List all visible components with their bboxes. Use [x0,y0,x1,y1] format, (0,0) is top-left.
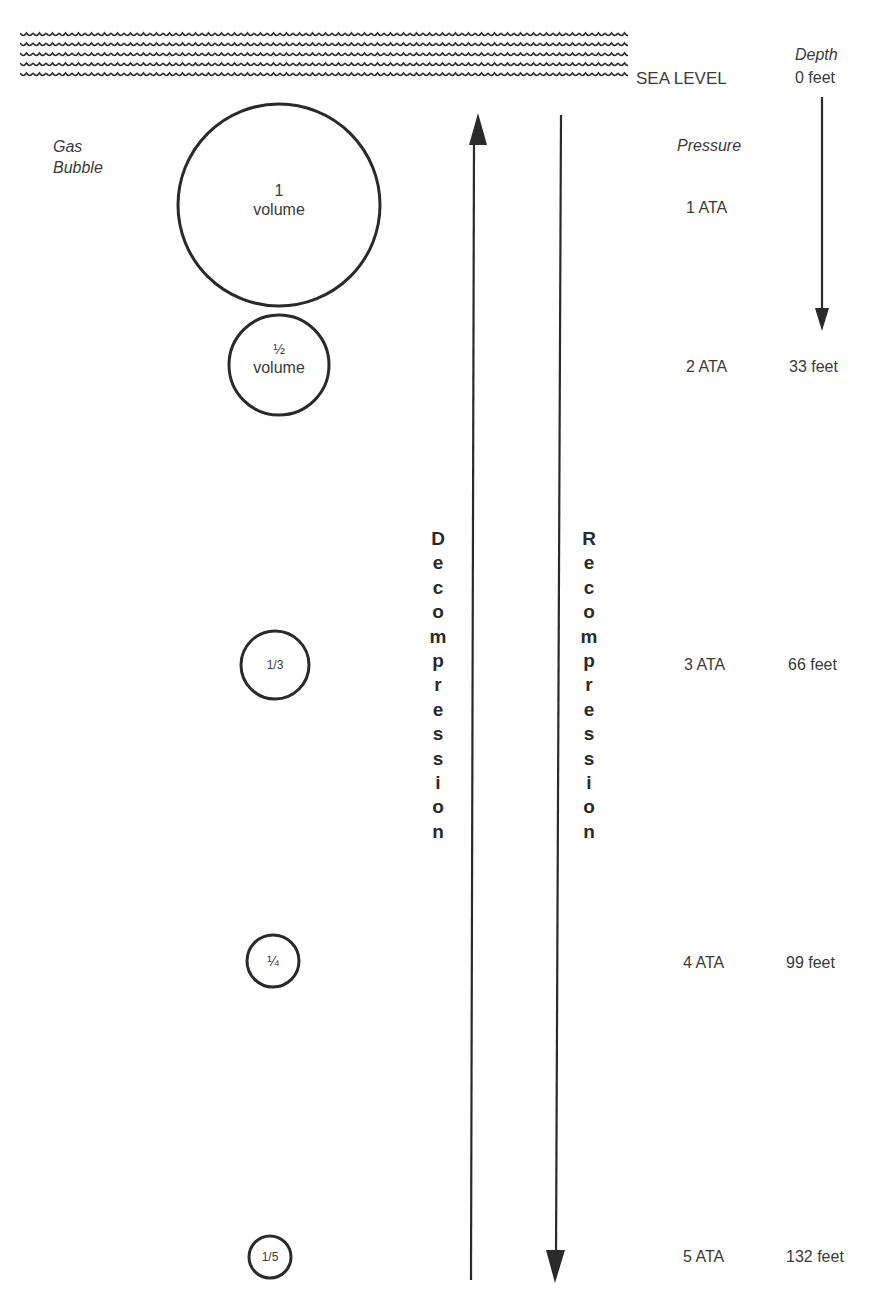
vertical-letter: s [426,722,450,746]
vertical-letter: o [577,600,601,624]
depth-header: Depth [795,47,838,63]
vertical-letter: s [577,747,601,771]
bubble-4-text: ¼ [243,953,303,970]
vertical-letter: i [577,771,601,795]
gas-bubble-label-line2: Bubble [53,160,103,176]
bubble-3-fraction: 1/3 [245,658,305,672]
sea-level-label: SEA LEVEL [636,70,727,87]
vertical-letter: r [577,673,601,697]
decompression-arrow [469,113,487,1280]
vertical-letter: s [577,722,601,746]
vertical-letter: e [577,698,601,722]
bubble-1-text: 1 volume [229,181,329,219]
vertical-letter: m [577,625,601,649]
bubble-2-text: ½ volume [229,341,329,377]
vertical-letter: n [577,820,601,844]
vertical-letter: D [426,527,450,551]
bubble-4-fraction: ¼ [243,953,303,970]
vertical-letter: c [577,576,601,600]
vertical-letter: i [426,771,450,795]
bubble-1-unit: volume [229,200,329,219]
sea-waves [20,30,628,77]
pressure-value-2: 2 ATA [686,359,727,375]
pressure-value-1: 1 ATA [686,200,727,216]
vertical-letter: o [577,795,601,819]
pressure-value-3: 3 ATA [684,657,725,673]
pressure-header: Pressure [677,138,741,154]
vertical-letter: e [426,698,450,722]
vertical-letter: o [426,600,450,624]
depth-value-0: 0 feet [795,70,835,86]
depth-value-132: 132 feet [786,1249,844,1265]
vertical-letter: n [426,820,450,844]
bubble-1-fraction: 1 [229,181,329,200]
vertical-letter: p [426,649,450,673]
depth-value-33: 33 feet [789,359,838,375]
vertical-letter: m [426,625,450,649]
recompression-label: Recompression [577,527,601,844]
vertical-letter: p [577,649,601,673]
depth-value-99: 99 feet [786,955,835,971]
vertical-letter: R [577,527,601,551]
bubble-5-text: 1/5 [240,1250,300,1264]
depth-value-66: 66 feet [788,657,837,673]
bubble-5-fraction: 1/5 [240,1250,300,1264]
bubble-2-fraction: ½ [229,341,329,358]
pressure-value-5: 5 ATA [683,1249,724,1265]
bubble-3-text: 1/3 [245,658,305,672]
vertical-letter: e [426,551,450,575]
depth-arrow [815,97,829,331]
vertical-letter: r [426,673,450,697]
vertical-letter: e [577,551,601,575]
vertical-letter: o [426,795,450,819]
decompression-label: Decompression [426,527,450,844]
gas-bubble-label-line1: Gas [53,139,82,155]
vertical-letter: s [426,747,450,771]
bubble-2-unit: volume [229,358,329,377]
vertical-letter: c [426,576,450,600]
recompression-arrow [546,115,565,1283]
pressure-value-4: 4 ATA [683,955,724,971]
